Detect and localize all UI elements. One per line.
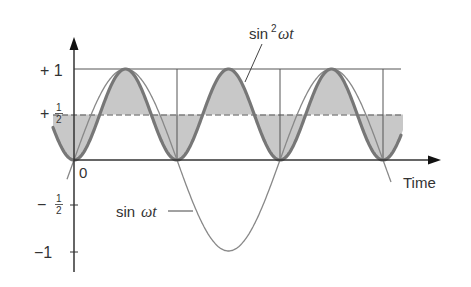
sin-squared-label-var: ωt — [278, 25, 294, 42]
sin-label-var: ωt — [141, 203, 157, 220]
sin-squared-leader-line — [245, 44, 262, 82]
label-plus-half-num: 1 — [56, 102, 62, 113]
label-origin: 0 — [79, 164, 87, 181]
sin-label-prefix: sin — [116, 203, 135, 220]
label-minus-half-num: 1 — [56, 193, 62, 204]
label-plus-half-den: 2 — [56, 114, 62, 125]
label-plus-one: + 1 — [40, 62, 63, 79]
sin-label: sin ωt — [116, 203, 157, 220]
sin-squared-label-exp: 2 — [271, 23, 277, 34]
label-minus-half-den: 2 — [56, 205, 62, 216]
waveform-diagram: + 1 + 1 2 − 1 2 −1 0 Time sin 2 ωt sin ω… — [0, 0, 471, 287]
label-minus-half-sign: − — [37, 196, 46, 213]
x-axis-arrow-icon — [428, 156, 441, 165]
label-minus-one: −1 — [34, 244, 52, 261]
label-time: Time — [403, 174, 436, 191]
y-axis-arrow-icon — [70, 37, 79, 50]
sin-squared-label: sin 2 ωt — [249, 23, 294, 42]
label-plus-half-sign: + — [40, 105, 49, 122]
sin-squared-label-prefix: sin — [249, 25, 268, 42]
